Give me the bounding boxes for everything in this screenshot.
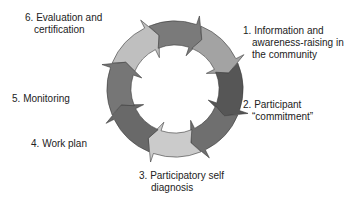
step-6-label: 6. Evaluation and certification	[25, 12, 102, 36]
step-5-label: 5. Monitoring	[12, 93, 70, 105]
step-1-label: 1. Information and awareness-raising in …	[243, 25, 344, 61]
step-2-label: 2. Participant “commitment”	[243, 99, 313, 123]
step-4-label: 4. Work plan	[31, 138, 87, 150]
step-3-label: 3. Participatory self diagnosis	[139, 170, 224, 194]
